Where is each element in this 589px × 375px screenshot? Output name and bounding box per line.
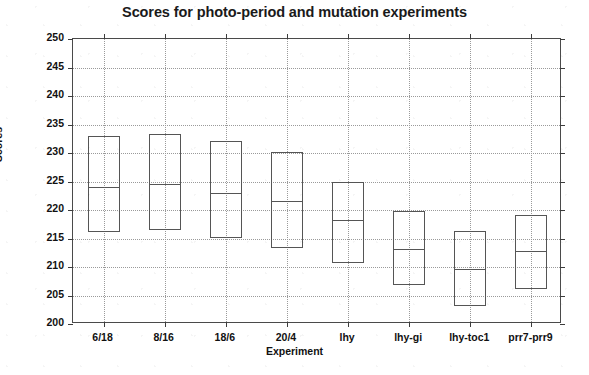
x-tick-mark xyxy=(531,322,532,327)
y-tick-label: 230 xyxy=(46,145,64,157)
y-gridline xyxy=(73,182,560,183)
y-gridline xyxy=(73,296,560,297)
x-tick-label: 18/6 xyxy=(215,331,235,343)
y-gridline xyxy=(73,210,560,211)
x-tick-mark xyxy=(287,322,288,327)
y-tick-label: 225 xyxy=(46,174,64,186)
x-tick-mark xyxy=(165,322,166,327)
box-plot-box xyxy=(149,134,181,230)
x-tick-mark xyxy=(470,34,471,39)
y-tick-mark xyxy=(68,153,73,154)
x-tick-label: lhy-gi xyxy=(394,331,422,343)
box-plot-median-line xyxy=(271,201,303,202)
box-plot-median-line xyxy=(88,187,120,188)
y-tick-label: 250 xyxy=(46,31,64,43)
y-gridline xyxy=(73,96,560,97)
y-tick-mark xyxy=(68,210,73,211)
y-tick-mark xyxy=(68,182,73,183)
x-tick-label: 8/16 xyxy=(153,331,173,343)
chart-figure: Scores for photo-period and mutation exp… xyxy=(0,0,589,375)
x-tick-mark xyxy=(287,34,288,39)
y-tick-mark xyxy=(68,96,73,97)
box-plot-box xyxy=(332,182,364,263)
box-plot-box xyxy=(271,152,303,247)
y-tick-mark xyxy=(68,324,73,325)
x-tick-mark xyxy=(348,34,349,39)
y-tick-mark xyxy=(560,39,565,40)
y-tick-mark xyxy=(68,267,73,268)
x-axis-label: Experiment xyxy=(0,345,589,357)
y-gridline xyxy=(73,153,560,154)
x-tick-mark xyxy=(226,322,227,327)
box-plot-median-line xyxy=(515,251,547,252)
y-axis-label: Scores xyxy=(0,127,4,162)
chart-title: Scores for photo-period and mutation exp… xyxy=(0,4,589,20)
x-tick-mark xyxy=(348,322,349,327)
y-gridline xyxy=(73,239,560,240)
y-tick-mark xyxy=(560,210,565,211)
y-gridline xyxy=(73,125,560,126)
y-tick-mark xyxy=(68,68,73,69)
plot-area xyxy=(72,38,561,323)
y-gridline xyxy=(73,267,560,268)
box-plot-box xyxy=(210,141,242,238)
y-tick-mark xyxy=(560,296,565,297)
box-plot-box xyxy=(88,136,120,232)
box-plot-box xyxy=(515,215,547,289)
box-plot-median-line xyxy=(149,184,181,185)
x-gridline xyxy=(348,39,349,322)
x-tick-mark xyxy=(104,34,105,39)
x-tick-label: 6/18 xyxy=(92,331,112,343)
x-tick-label: lhy xyxy=(339,331,354,343)
x-tick-mark xyxy=(470,322,471,327)
box-plot-median-line xyxy=(332,220,364,221)
x-tick-mark xyxy=(409,322,410,327)
y-gridline xyxy=(73,68,560,69)
y-tick-label: 220 xyxy=(46,202,64,214)
y-tick-mark xyxy=(68,296,73,297)
box-plot-median-line xyxy=(210,193,242,194)
x-tick-mark xyxy=(531,34,532,39)
y-tick-label: 210 xyxy=(46,259,64,271)
y-tick-mark xyxy=(560,96,565,97)
y-tick-label: 240 xyxy=(46,88,64,100)
y-tick-mark xyxy=(560,267,565,268)
y-tick-label: 245 xyxy=(46,60,64,72)
box-plot-median-line xyxy=(393,249,425,250)
x-tick-mark xyxy=(409,34,410,39)
y-tick-mark xyxy=(560,239,565,240)
box-plot-median-line xyxy=(454,269,486,270)
x-tick-mark xyxy=(165,34,166,39)
y-tick-mark xyxy=(560,68,565,69)
x-tick-mark xyxy=(226,34,227,39)
x-tick-label: prr7-prr9 xyxy=(508,331,552,343)
x-tick-mark xyxy=(104,322,105,327)
y-tick-mark xyxy=(560,125,565,126)
x-tick-label: lhy-toc1 xyxy=(449,331,489,343)
y-tick-mark xyxy=(68,39,73,40)
y-tick-mark xyxy=(560,324,565,325)
y-tick-label: 215 xyxy=(46,231,64,243)
y-tick-label: 200 xyxy=(46,316,64,328)
y-tick-mark xyxy=(560,153,565,154)
y-tick-mark xyxy=(560,182,565,183)
y-tick-label: 205 xyxy=(46,288,64,300)
y-tick-mark xyxy=(68,125,73,126)
x-tick-label: 20/4 xyxy=(276,331,296,343)
y-tick-mark xyxy=(68,239,73,240)
y-tick-label: 235 xyxy=(46,117,64,129)
